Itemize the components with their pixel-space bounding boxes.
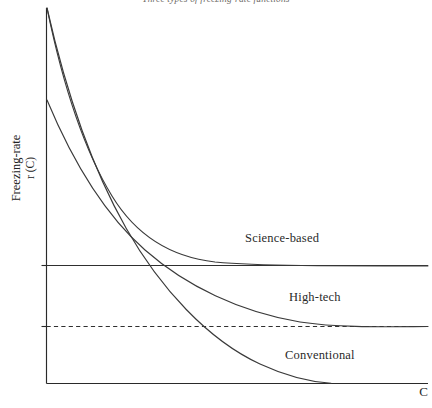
high-tech-curve — [47, 100, 428, 327]
plot-area — [0, 0, 432, 408]
label-science-based: Science-based — [245, 231, 319, 246]
label-high-tech: High-tech — [289, 290, 341, 305]
label-conventional: Conventional — [285, 348, 355, 363]
x-axis-label: C — [419, 384, 428, 400]
figure-container: Three types of freezing-rate functions F… — [0, 0, 432, 408]
science-based-curve — [47, 8, 428, 266]
